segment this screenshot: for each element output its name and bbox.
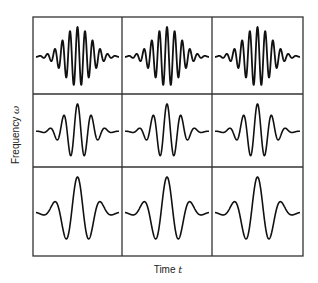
wavelet-low-r2c0: [36, 177, 119, 239]
wavelet-medium-r1c0: [36, 104, 119, 156]
wavelet-high-r0c1: [125, 27, 209, 85]
y-axis-label-text: Frequency: [10, 117, 21, 164]
wavelet-low-r2c2: [215, 177, 300, 239]
wavelet-high-r0c2: [215, 27, 300, 85]
wavelet-low-r2c1: [125, 177, 209, 239]
y-axis-symbol: ω: [10, 106, 21, 114]
y-axis-label: Frequency ω: [10, 90, 24, 180]
x-axis-label-text: Time: [154, 264, 176, 275]
wavelet-medium-r1c2: [215, 104, 300, 156]
wavelet-tiling-figure: Frequency ω Time t: [0, 0, 318, 283]
time-frequency-grid: [0, 0, 318, 283]
wavelet-medium-r1c1: [125, 104, 209, 156]
wavelet-high-r0c0: [36, 27, 119, 85]
x-axis-label: Time t: [118, 264, 218, 275]
x-axis-symbol: t: [178, 264, 182, 275]
